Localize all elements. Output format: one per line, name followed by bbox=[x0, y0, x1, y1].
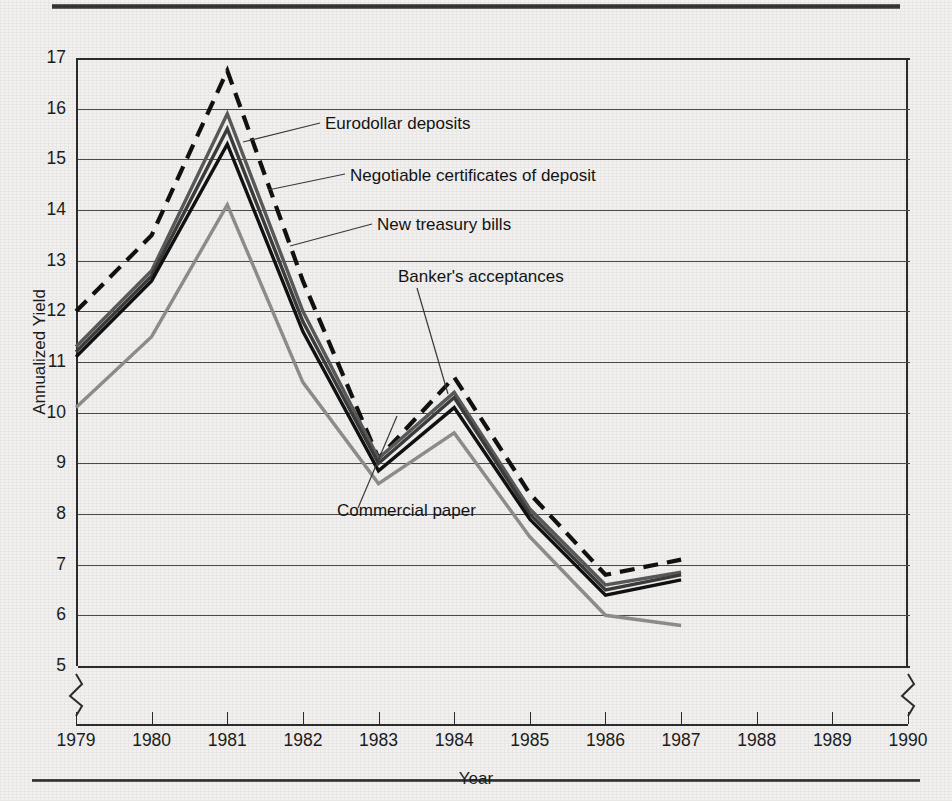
x-tick-1987 bbox=[681, 712, 682, 724]
x-tick-label-1989: 1989 bbox=[792, 732, 872, 750]
y-tick-label-6: 6 bbox=[26, 606, 66, 624]
x-tick-label-1990: 1990 bbox=[868, 732, 948, 750]
x-tick-1981 bbox=[227, 712, 228, 724]
y-tick-label-15: 15 bbox=[26, 150, 66, 168]
x-tick-label-1984: 1984 bbox=[414, 732, 494, 750]
annotation-eurodollar-deposits: Eurodollar deposits bbox=[325, 115, 471, 132]
y-tick-label-5: 5 bbox=[26, 657, 66, 675]
y-tick-label-8: 8 bbox=[26, 505, 66, 523]
x-tick-label-1980: 1980 bbox=[112, 732, 192, 750]
x-tick-1990 bbox=[908, 712, 909, 724]
x-tick-1986 bbox=[605, 712, 606, 724]
x-tick-label-1979: 1979 bbox=[36, 732, 116, 750]
y-tick-label-9: 9 bbox=[26, 454, 66, 472]
annotation-commercial-paper: Commercial paper bbox=[337, 502, 476, 519]
x-tick-1982 bbox=[303, 712, 304, 724]
y-tick-label-14: 14 bbox=[26, 201, 66, 219]
x-tick-1983 bbox=[379, 712, 380, 724]
x-tick-label-1981: 1981 bbox=[187, 732, 267, 750]
y-axis-tick-labels: 567891011121314151617 bbox=[0, 12, 952, 712]
x-tick-label-1988: 1988 bbox=[717, 732, 797, 750]
x-axis-line bbox=[76, 724, 908, 726]
y-tick-label-17: 17 bbox=[26, 49, 66, 67]
x-tick-label-1987: 1987 bbox=[641, 732, 721, 750]
chart-figure: 567891011121314151617 197919801981198219… bbox=[0, 12, 952, 772]
x-axis-title: Year bbox=[0, 769, 952, 789]
x-tick-1980 bbox=[152, 712, 153, 724]
x-tick-label-1986: 1986 bbox=[565, 732, 645, 750]
page-top-rule bbox=[52, 4, 900, 9]
x-tick-label-1982: 1982 bbox=[263, 732, 343, 750]
annotation-negotiable-certificates-of-deposit: Negotiable certificates of deposit bbox=[350, 167, 596, 184]
x-tick-1989 bbox=[832, 712, 833, 724]
x-tick-1984 bbox=[454, 712, 455, 724]
x-tick-label-1983: 1983 bbox=[339, 732, 419, 750]
x-tick-1979 bbox=[76, 712, 77, 724]
x-tick-1988 bbox=[757, 712, 758, 724]
y-tick-label-7: 7 bbox=[26, 556, 66, 574]
y-axis-title: Annualized Yield bbox=[30, 252, 50, 452]
x-tick-label-1985: 1985 bbox=[490, 732, 570, 750]
annotation-bankers-acceptances: Banker's acceptances bbox=[398, 268, 564, 285]
x-tick-1985 bbox=[530, 712, 531, 724]
y-tick-label-16: 16 bbox=[26, 100, 66, 118]
annotation-new-treasury-bills: New treasury bills bbox=[377, 216, 511, 233]
